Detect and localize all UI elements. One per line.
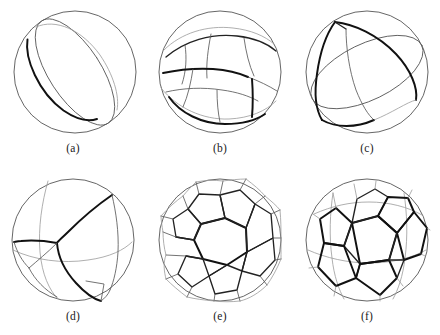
cell-edge-d-1 bbox=[57, 195, 112, 243]
back-arc-d-1 bbox=[39, 181, 58, 299]
cell-edge-f-4 bbox=[397, 260, 404, 278]
panel-caption-d: (d) bbox=[0, 310, 146, 322]
cell-pentagon-e-2 bbox=[188, 194, 225, 224]
cell-edge-c-6 bbox=[374, 100, 416, 120]
sphere-diagram-e bbox=[147, 168, 293, 313]
cell-edge-d-3 bbox=[14, 241, 57, 243]
sphere-diagram-b bbox=[147, 0, 293, 145]
cell-edge-e-rim-7 bbox=[265, 196, 280, 210]
cell-edge-f-3 bbox=[389, 233, 404, 260]
cell-pentagon-e-3 bbox=[220, 190, 255, 228]
cell-pentagon-f-left bbox=[320, 208, 352, 246]
cell-edge-d-2 bbox=[57, 243, 101, 301]
cell-edge-c-4 bbox=[346, 29, 374, 120]
panel-e: (e) bbox=[147, 168, 293, 335]
panel-caption-b: (b) bbox=[147, 142, 293, 154]
cell-edge-e-rim-3 bbox=[183, 182, 196, 196]
cell-edge-e-rim-14 bbox=[166, 279, 187, 297]
cell-edge-d-4 bbox=[110, 195, 118, 290]
panel-d: (d) bbox=[0, 168, 146, 335]
panel-caption-e: (e) bbox=[147, 310, 293, 322]
panel-c: (c) bbox=[294, 0, 440, 167]
sphere-diagram-a bbox=[0, 0, 146, 145]
cell-edge-e-rim-12 bbox=[214, 301, 240, 302]
cell-edge-b-7 bbox=[166, 88, 258, 101]
cell-edge-b-2 bbox=[182, 45, 186, 84]
sphere-diagram-f bbox=[294, 168, 440, 313]
back-edge-f-3 bbox=[308, 250, 426, 263]
cell-edge-e-rim-2 bbox=[161, 196, 183, 216]
cell-edge-e-1 bbox=[209, 265, 227, 276]
cell-edge-b-1 bbox=[166, 35, 276, 57]
panel-caption-c: (c) bbox=[294, 142, 440, 154]
cell-edge-e-rim-6 bbox=[246, 179, 265, 196]
cell-edge-e-rim-10 bbox=[267, 259, 281, 285]
cell-pentagon-f-lower-left bbox=[318, 243, 356, 286]
panel-f: (f) bbox=[294, 168, 440, 335]
cell-pentagon-e-7 bbox=[178, 256, 209, 287]
cell-edge-b-5 bbox=[163, 69, 248, 77]
sphere-diagram-c bbox=[294, 0, 440, 145]
sphere-outline-a bbox=[14, 11, 136, 133]
cell-edge-f-1 bbox=[344, 223, 360, 264]
cell-edge-b-9 bbox=[217, 90, 220, 122]
cell-edge-b-10 bbox=[252, 79, 253, 117]
cell-edge-b-4 bbox=[244, 38, 254, 76]
cell-edge-e-2 bbox=[186, 256, 203, 259]
panel-a: (a) bbox=[0, 0, 146, 167]
cell-edge-e-rim-upper bbox=[161, 181, 223, 237]
panel-caption-f: (f) bbox=[294, 310, 440, 322]
panel-caption-a: (a) bbox=[0, 142, 146, 154]
great-circle-c bbox=[300, 20, 434, 124]
cell-pentagon-f-right bbox=[397, 212, 427, 260]
figure-container: (a) bbox=[0, 0, 440, 335]
cell-edge-d-7 bbox=[29, 243, 57, 268]
sphere-diagram-d bbox=[0, 168, 146, 313]
cell-edge-c-5 bbox=[322, 120, 374, 126]
cell-edge-e-3 bbox=[176, 237, 194, 240]
cell-edge-c-1 bbox=[335, 22, 416, 100]
cell-edge-e-rim-11 bbox=[240, 285, 267, 301]
back-arc-d-2 bbox=[13, 242, 132, 262]
cell-edge-e-rim-16 bbox=[163, 232, 166, 255]
cell-edge-b-3 bbox=[207, 34, 211, 78]
cell-pentagon-f-bottom bbox=[356, 260, 397, 295]
cell-edge-e-rim-4 bbox=[196, 180, 223, 182]
panel-b: (b) bbox=[147, 0, 293, 167]
